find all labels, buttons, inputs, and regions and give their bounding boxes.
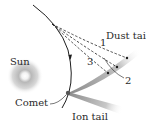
path-3-label: 3: [87, 57, 93, 67]
comet-tails-diagram: Sun Comet Dust tail Ion tail 1 2 3: [0, 0, 146, 128]
comet-label: Comet: [15, 98, 48, 108]
dust-tail-label: Dust tail: [106, 31, 146, 41]
path-2-label: 2: [125, 76, 131, 86]
particle-1-end: [126, 57, 128, 59]
ion-tail-label: Ion tail: [72, 112, 108, 122]
path-1-label: 1: [100, 38, 106, 48]
particle-2-end: [116, 66, 118, 68]
comet-orbit: [33, 5, 71, 108]
particle-3-end: [107, 72, 109, 74]
comet-nucleus-icon: [66, 91, 70, 95]
orbit-direction-arrow-icon: [69, 55, 73, 61]
sun-label: Sun: [10, 57, 30, 67]
leader-line-comet: [50, 95, 66, 104]
path-3: [52, 24, 108, 73]
